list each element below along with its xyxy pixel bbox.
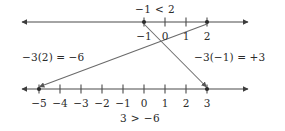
top-tick-label-two: 2	[204, 31, 211, 42]
left-expression-label: −3(2) = −6	[22, 52, 84, 63]
bottom-tick-label-neg3: −3	[73, 98, 88, 109]
bottom-tick-label-neg5: −5	[31, 98, 46, 109]
bottom-tick-label-two: 2	[183, 98, 190, 109]
inequality-number-line-figure: −1 < 2 −1 0 1 2 −3(2) = −6 −3(−1) = +3 −…	[0, 0, 285, 131]
right-expression-label: −3(−1) = +3	[194, 52, 265, 63]
top-tick-label-zero: 0	[162, 31, 169, 42]
top-inequality-label: −1 < 2	[135, 4, 175, 15]
bottom-number-line	[22, 85, 248, 94]
bottom-tick-label-three: 3	[204, 98, 211, 109]
bottom-point-neg5	[37, 87, 41, 91]
top-point-neg1	[142, 20, 146, 24]
bottom-tick-label-neg2: −2	[94, 98, 109, 109]
bottom-inequality-label: 3 > −6	[120, 113, 160, 124]
top-point-two	[205, 20, 209, 24]
bottom-tick-label-neg1: −1	[115, 98, 130, 109]
bottom-tick-label-neg4: −4	[52, 98, 67, 109]
top-tick-label-one: 1	[183, 31, 190, 42]
top-number-line	[22, 18, 248, 27]
bottom-tick-label-one: 1	[162, 98, 169, 109]
bottom-point-three	[205, 87, 209, 91]
bottom-tick-label-zero: 0	[141, 98, 148, 109]
top-tick-label-neg1: −1	[136, 31, 151, 42]
